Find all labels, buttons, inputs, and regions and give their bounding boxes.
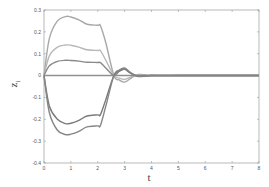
y-tick-label: -0.3 — [32, 138, 41, 144]
y-tick-label: 0.2 — [34, 29, 41, 35]
y-tick-label: -0.2 — [32, 116, 41, 122]
y-tick-label: 0 — [38, 72, 41, 78]
x-tick-label: 1 — [69, 165, 72, 171]
x-tick-label: 6 — [204, 165, 207, 171]
svg-text:zi: zi — [7, 81, 22, 88]
y-tick-label: 0.1 — [34, 51, 41, 57]
x-tick-label: 3 — [123, 165, 126, 171]
y-tick-label: -0.4 — [32, 160, 41, 166]
y-tick-label: 0.3 — [34, 7, 41, 13]
line-chart: 0.30.20.10-0.1-0.2-0.3-0.4 012345678 t z… — [0, 0, 269, 187]
x-tick-label: 4 — [150, 165, 153, 171]
x-tick-label: 5 — [177, 165, 180, 171]
x-tick-label: 0 — [43, 165, 46, 171]
x-axis-label: t — [147, 171, 150, 183]
y-axis-label: zi — [7, 81, 22, 88]
x-tick-label: 7 — [231, 165, 234, 171]
x-tick-label: 8 — [258, 165, 261, 171]
x-tick-label: 2 — [96, 165, 99, 171]
y-tick-label: -0.1 — [32, 94, 41, 100]
y-axis-label-sub: i — [14, 81, 22, 83]
plot-area — [44, 10, 259, 163]
